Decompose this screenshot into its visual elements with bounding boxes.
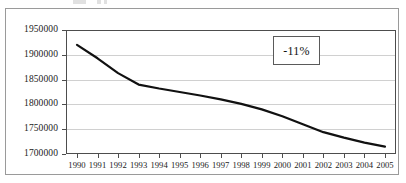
x-tick-label: 1991	[89, 161, 106, 170]
y-tick-label: 1950000	[6, 25, 58, 35]
x-tick-label: 2004	[356, 161, 373, 170]
x-tick-label: 1994	[150, 161, 167, 170]
annotation-label: -11%	[283, 45, 309, 57]
y-tick-label: 1750000	[6, 124, 58, 134]
x-tick-mark	[385, 154, 386, 158]
x-tick-mark	[364, 154, 365, 158]
x-tick-label: 2002	[315, 161, 332, 170]
x-tick-label: 1996	[191, 161, 208, 170]
y-tick-mark	[62, 154, 66, 155]
x-tick-mark	[221, 154, 222, 158]
x-tick-mark	[139, 154, 140, 158]
x-tick-label: 1999	[253, 161, 270, 170]
plot-area	[66, 30, 396, 154]
y-tick-mark	[62, 129, 66, 130]
x-tick-label: 2001	[294, 161, 311, 170]
caption-clip-artifact	[73, 0, 86, 4]
line-series	[66, 30, 396, 154]
x-tick-label: 1990	[68, 161, 85, 170]
x-tick-mark	[77, 154, 78, 158]
x-tick-mark	[159, 154, 160, 158]
series-polyline	[77, 45, 385, 147]
x-tick-mark	[241, 154, 242, 158]
x-tick-label: 2000	[274, 161, 291, 170]
x-tick-mark	[98, 154, 99, 158]
y-tick-mark	[62, 30, 66, 31]
annotation-box: -11%	[273, 36, 320, 65]
y-tick-mark	[62, 104, 66, 105]
x-tick-label: 1998	[233, 161, 250, 170]
y-tick-label: 1800000	[6, 99, 58, 109]
caption-clip-artifact	[97, 0, 101, 4]
x-tick-mark	[282, 154, 283, 158]
x-tick-mark	[323, 154, 324, 158]
x-tick-mark	[262, 154, 263, 158]
y-tick-label: 1700000	[6, 149, 58, 159]
x-tick-label: 1992	[109, 161, 126, 170]
chart-frame: 1950000190000018500001800000175000017000…	[5, 8, 399, 175]
x-tick-mark	[118, 154, 119, 158]
x-tick-label: 2003	[335, 161, 352, 170]
x-tick-label: 1995	[171, 161, 188, 170]
y-tick-mark	[62, 80, 66, 81]
y-tick-label: 1850000	[6, 75, 58, 85]
x-tick-mark	[200, 154, 201, 158]
y-tick-label: 1900000	[6, 50, 58, 60]
x-tick-mark	[344, 154, 345, 158]
x-tick-label: 1997	[212, 161, 229, 170]
caption-clip-artifact	[104, 0, 107, 4]
chart-figure: 1950000190000018500001800000175000017000…	[0, 0, 406, 183]
x-tick-label: 2005	[376, 161, 393, 170]
x-tick-label: 1993	[130, 161, 147, 170]
x-tick-mark	[303, 154, 304, 158]
y-tick-mark	[62, 55, 66, 56]
x-tick-mark	[180, 154, 181, 158]
